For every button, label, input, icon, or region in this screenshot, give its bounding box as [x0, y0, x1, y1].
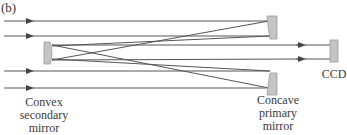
ccd-label: CCD: [318, 68, 347, 81]
label-line: mirror: [4, 122, 84, 135]
primary-mirror-lower: [267, 73, 277, 95]
label-line: mirror: [238, 120, 318, 133]
reflected-rays: [52, 21, 270, 88]
primary-mirror-label: Concave primary mirror: [238, 94, 318, 133]
secondary-mirror-label: Convex secondary mirror: [4, 96, 84, 135]
secondary-mirror: [44, 42, 52, 64]
ccd-detector: [330, 40, 338, 62]
